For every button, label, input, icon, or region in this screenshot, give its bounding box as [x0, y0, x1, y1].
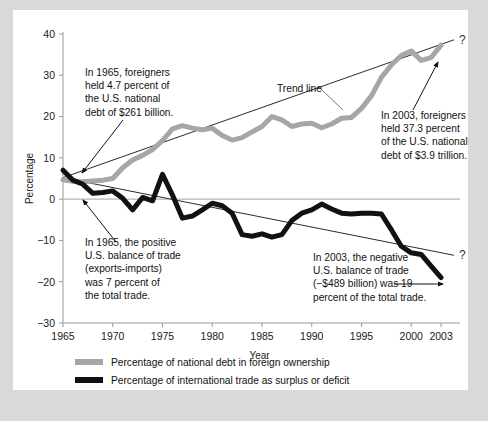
- annotation-line: U.S. balance of trade: [85, 250, 181, 261]
- legend-label: Percentage of national debt in foreign o…: [111, 357, 330, 368]
- y-tick-label: 40: [43, 28, 55, 40]
- legend-group: Percentage of national debt in foreign o…: [75, 357, 350, 386]
- x-tick-label: 1990: [300, 330, 324, 342]
- y-axis-title: Percentage: [24, 152, 35, 204]
- annotation-line: the U.S. national: [85, 93, 160, 104]
- annotation-line: In 1965, foreigners: [85, 67, 170, 78]
- x-tick-label: 1985: [250, 330, 274, 342]
- annotation-arrow: [83, 200, 116, 242]
- annotation-1965-debt: In 1965, foreignersheld 4.7 percent ofth…: [82, 67, 173, 173]
- y-tick-label: 20: [43, 110, 55, 122]
- annotation-line: held 4.7 percent of: [85, 80, 170, 91]
- annotation-line: percent of the total trade.: [313, 292, 426, 303]
- y-tick-label: −10: [37, 234, 55, 246]
- annotation-line: In 2003, foreigners: [381, 110, 466, 121]
- annotation-line: of the U.S. national: [381, 136, 468, 147]
- x-tick-label: 1965: [51, 330, 75, 342]
- y-tick-label: −30: [37, 317, 55, 329]
- x-tick-label: 1970: [101, 330, 125, 342]
- x-tick-label: 1980: [201, 330, 225, 342]
- annotation-line: was 7 percent of: [84, 277, 160, 288]
- annotation-1965-trade: In 1965, the positiveU.S. balance of tra…: [83, 200, 181, 301]
- annotation-line: In 1965, the positive: [85, 237, 177, 248]
- trend-label-leader: [321, 89, 343, 110]
- annotation-line: U.S. balance of trade: [313, 265, 409, 276]
- x-tick-label: 2000: [400, 330, 424, 342]
- annotation-line: (exports-imports): [85, 263, 162, 274]
- annotation-line: held 37.3 percent: [381, 123, 460, 134]
- annotation-line: In 2003, the negative: [313, 252, 408, 263]
- annotation-2003-debt: In 2003, foreignersheld 37.3 percentof t…: [381, 62, 468, 161]
- legend-label: Percentage of international trade as sur…: [111, 375, 350, 386]
- x-tick-label: 2003: [429, 330, 453, 342]
- x-tick-label: 1975: [151, 330, 175, 342]
- y-tick-label: −20: [37, 276, 55, 288]
- y-tick-label: 30: [43, 69, 55, 81]
- annotation-arrow: [413, 62, 438, 110]
- annotation-arrow: [82, 120, 123, 173]
- annotation-line: the total trade.: [85, 290, 150, 301]
- annotation-line: debt of $261 billion.: [85, 107, 173, 118]
- y-tick-label: 10: [43, 152, 55, 164]
- chart-canvas: ??Trend line In 1965, foreignersheld 4.7…: [13, 10, 468, 390]
- y-tick-label: 0: [49, 193, 55, 205]
- annotation-line: debt of $3.9 trillion.: [381, 150, 467, 161]
- annotations-group: In 1965, foreignersheld 4.7 percent ofth…: [82, 62, 468, 303]
- trend-line-label: Trend line: [277, 83, 322, 94]
- x-tick-label: 1995: [350, 330, 374, 342]
- figure-panel: ??Trend line In 1965, foreignersheld 4.7…: [13, 10, 468, 390]
- trend-question-mark: ?: [459, 248, 466, 262]
- trend-question-mark: ?: [459, 33, 466, 47]
